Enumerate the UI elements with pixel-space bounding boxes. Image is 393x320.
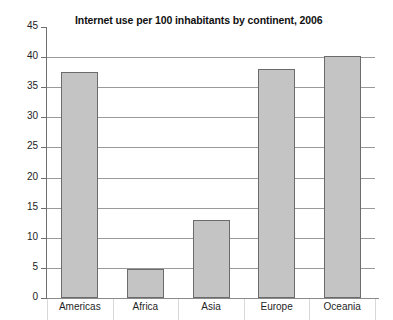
y-axis-tick-label: 30 <box>14 110 38 121</box>
x-axis-label-europe: Europe <box>244 301 310 312</box>
y-axis-tick-label: 20 <box>14 171 38 182</box>
bar-africa[interactable] <box>127 269 164 298</box>
y-axis-tick-label: 0 <box>14 291 38 302</box>
x-axis-label-asia: Asia <box>178 301 244 312</box>
x-axis-label-africa: Africa <box>113 301 179 312</box>
chart-title: Internet use per 100 inhabitants by cont… <box>75 14 375 26</box>
x-axis-label-oceania: Oceania <box>309 301 375 312</box>
y-axis-tick-label: 10 <box>14 231 38 242</box>
y-axis-tick-label: 15 <box>14 201 38 212</box>
y-axis-tick-label: 35 <box>14 80 38 91</box>
x-axis-line <box>47 298 379 299</box>
bar-americas[interactable] <box>61 72 98 298</box>
plot-area <box>47 27 375 298</box>
bar-asia[interactable] <box>193 220 230 298</box>
category-divider <box>375 299 376 320</box>
x-axis-label-americas: Americas <box>47 301 113 312</box>
y-axis-tick-label: 5 <box>14 261 38 272</box>
bar-europe[interactable] <box>258 69 295 298</box>
bar-oceania[interactable] <box>324 56 361 298</box>
y-axis-tick-label: 25 <box>14 140 38 151</box>
category-divider <box>47 299 48 320</box>
y-axis-tick-label: 45 <box>14 20 38 31</box>
y-axis-tick-label: 40 <box>14 50 38 61</box>
bar-chart: Internet use per 100 inhabitants by cont… <box>0 0 393 320</box>
